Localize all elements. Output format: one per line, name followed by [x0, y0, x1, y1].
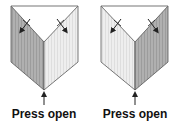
right-figure-light-face [101, 6, 135, 90]
left-figure-light-face [44, 6, 78, 90]
right-figure-caption: Press open [95, 107, 174, 121]
left-figure-dark-face [11, 6, 44, 90]
right-figure-dark-face [135, 6, 168, 90]
left-folded-shape [11, 6, 78, 105]
left-figure-caption: Press open [4, 107, 84, 121]
press-open-diagram: Press open Press open [0, 0, 174, 135]
right-folded-shape [101, 6, 168, 105]
